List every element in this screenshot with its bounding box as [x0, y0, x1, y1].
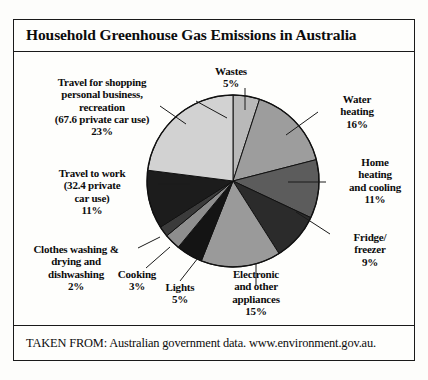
pie-chart: Travel for shopping personal business, r… — [0, 0, 428, 380]
slice-label-wastes: Wastes 5% — [196, 65, 266, 90]
slice-label-travel-shopping: Travel for shopping personal business, r… — [22, 76, 182, 138]
footer-divider — [14, 325, 414, 326]
slice-label-electronic: Electronic and other appliances 15% — [212, 268, 300, 317]
leader-line-cooking — [146, 247, 170, 268]
slice-label-travel-to-work: Travel to work (32.4 private car use) 11… — [28, 167, 156, 216]
chart-page: Household Greenhouse Gas Emissions in Au… — [0, 0, 428, 380]
slice-label-clothes-washing: Clothes washing & drying and dishwashing… — [16, 243, 136, 292]
slice-label-home-heating: Home heating and cooling 11% — [330, 156, 420, 205]
leader-line-clothes — [138, 237, 160, 248]
slice-label-fridge-freezer: Fridge/ freezer 9% — [334, 231, 406, 268]
leader-line-lights — [180, 258, 198, 281]
slice-label-water-heating: Water heating 16% — [322, 93, 392, 130]
source-note: TAKEN FROM: Australian government data. … — [26, 336, 376, 351]
